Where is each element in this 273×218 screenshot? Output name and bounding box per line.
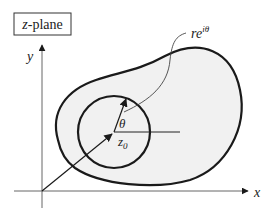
z-plane-title-box: z-plane: [14, 13, 71, 35]
z-plane-diagram: z-plane y x θ z0 reiθ: [0, 0, 273, 218]
svg-text:z-plane: z-plane: [21, 17, 62, 32]
title-rest: -plane: [28, 17, 63, 32]
point-label: reiθ: [191, 24, 210, 41]
y-axis-label: y: [25, 49, 34, 64]
x-axis-label: x: [253, 185, 261, 200]
theta-label: θ: [119, 116, 126, 131]
